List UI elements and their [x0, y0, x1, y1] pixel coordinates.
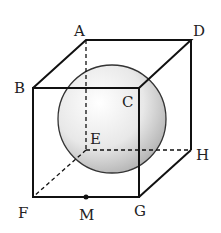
- point-m: [84, 195, 89, 200]
- label-m: M: [79, 206, 94, 224]
- label-b: B: [14, 79, 25, 97]
- label-a: A: [73, 22, 85, 40]
- cube-sphere-diagram: A D B C E H F M G: [0, 0, 221, 233]
- label-h: H: [196, 146, 209, 164]
- label-f: F: [18, 204, 28, 222]
- label-c: C: [122, 93, 133, 111]
- label-e: E: [90, 130, 101, 148]
- sphere: [58, 65, 166, 173]
- label-g: G: [134, 202, 146, 220]
- label-d: D: [193, 22, 205, 40]
